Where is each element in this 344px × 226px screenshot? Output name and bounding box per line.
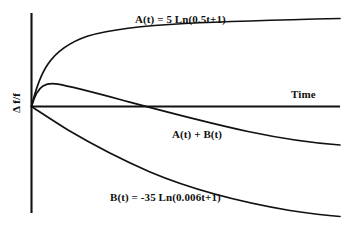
annotation-curve-sum: A(t) + B(t) (172, 128, 222, 140)
y-axis-label: Δ f/f (10, 81, 22, 125)
chart-figure: A(t) = 5 Ln(0.5t+1) A(t) + B(t) B(t) = -… (0, 0, 344, 226)
x-axis-label: Time (291, 88, 316, 100)
annotation-curve-a: A(t) = 5 Ln(0.5t+1) (135, 13, 226, 25)
annotation-curve-b: B(t) = -35 Ln(0.006t+1) (110, 191, 221, 203)
